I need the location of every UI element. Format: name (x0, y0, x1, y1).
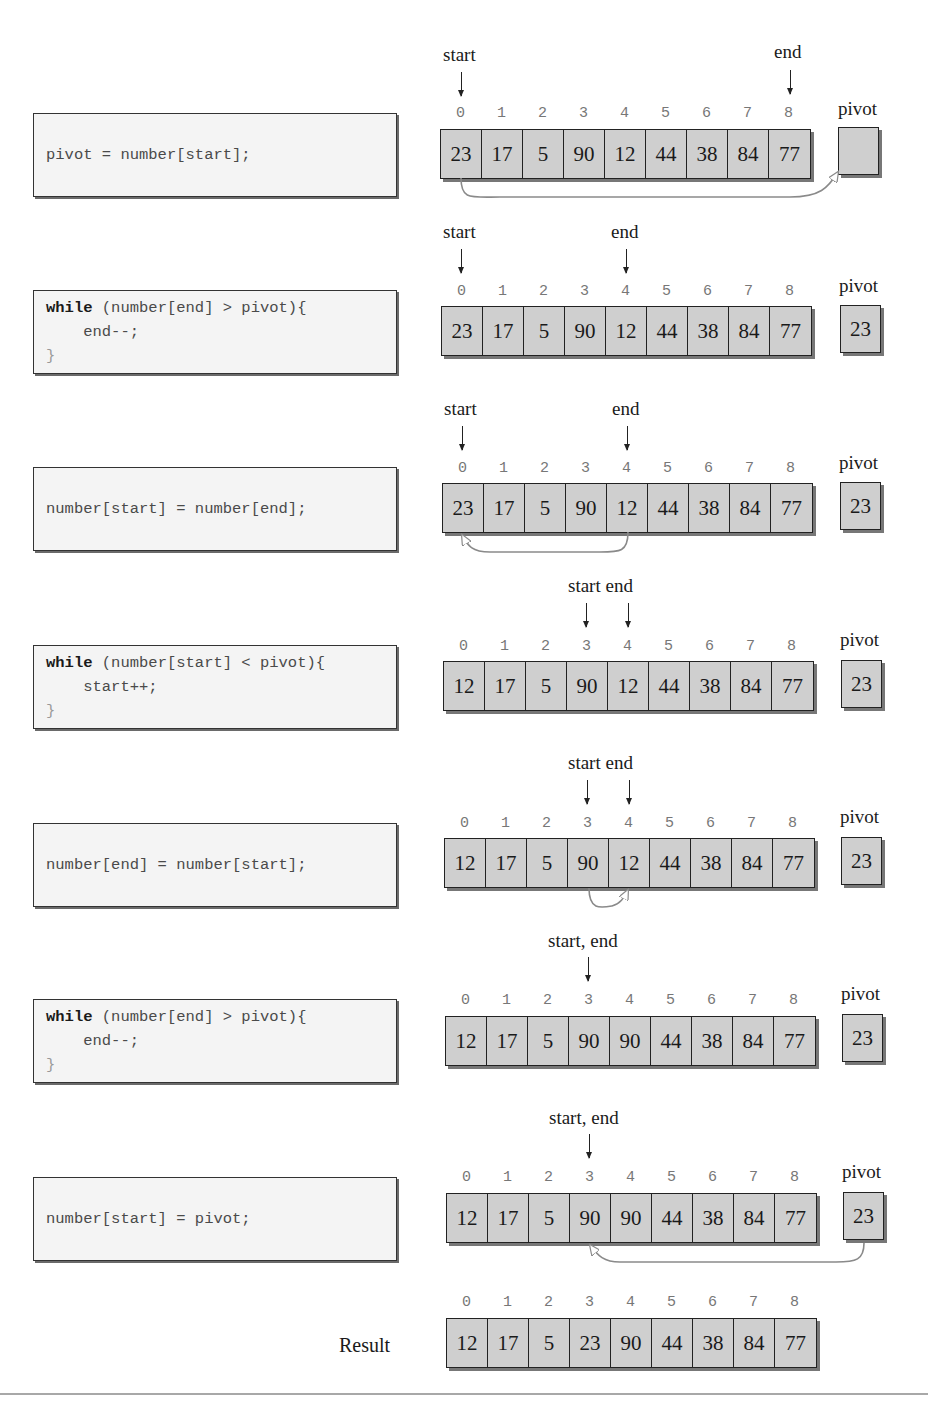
array: 23175901244388477 (442, 483, 813, 533)
array-cell: 77 (770, 307, 811, 355)
move-arrow-icon (589, 888, 628, 907)
array-cell: 17 (483, 307, 524, 355)
start-end-pointer-label: start, end (549, 1107, 619, 1129)
down-arrow-icon (461, 249, 462, 273)
down-arrow-icon (461, 72, 462, 96)
array-cell: 44 (646, 130, 687, 178)
array-cell: 44 (647, 307, 688, 355)
pivot-label: pivot (840, 806, 879, 828)
array: 12175901244388477 (444, 838, 815, 888)
down-arrow-icon (628, 603, 629, 627)
array-cell: 77 (775, 1194, 816, 1242)
pivot-box: 23 (840, 305, 881, 353)
array-cell: 5 (524, 307, 565, 355)
start-pointer-label: start (444, 398, 477, 420)
array-cell: 90 (569, 1017, 610, 1065)
result-array: 12175239044388477 (446, 1318, 817, 1368)
pivot-label: pivot (839, 452, 878, 474)
pivot-label: pivot (842, 1161, 881, 1183)
array-cell: 12 (605, 130, 646, 178)
down-arrow-icon (626, 249, 627, 273)
array-cell: 90 (565, 307, 606, 355)
array-cell: 12 (607, 484, 648, 532)
array: 23175901244388477 (441, 306, 812, 356)
end-pointer-label: end (774, 41, 801, 63)
end-pointer-label: end (611, 221, 638, 243)
code-box: number[start] = number[end]; (33, 467, 397, 551)
array-cell: 90 (611, 1194, 652, 1242)
down-arrow-icon (589, 1134, 590, 1158)
array-cell: 12 (606, 307, 647, 355)
pivot-box: 23 (842, 1014, 883, 1062)
array-cell: 44 (651, 1017, 692, 1065)
array-cell: 38 (687, 130, 728, 178)
array-cell: 84 (729, 307, 770, 355)
index-row: 012345678 (446, 1294, 815, 1311)
down-arrow-icon (629, 780, 630, 804)
result-label: Result (339, 1334, 390, 1357)
array-cell: 38 (693, 1319, 734, 1367)
index-row: 012345678 (442, 460, 811, 477)
code-box: number[end] = number[start]; (33, 823, 397, 907)
array-cell: 5 (529, 1319, 570, 1367)
array-cell: 5 (529, 1194, 570, 1242)
array-cell: 17 (482, 130, 523, 178)
array-cell: 23 (570, 1319, 611, 1367)
pivot-label: pivot (838, 98, 877, 120)
array-cell: 38 (692, 1017, 733, 1065)
array-cell: 12 (446, 1017, 487, 1065)
pivot-box: 23 (840, 482, 881, 530)
array-cell: 44 (652, 1194, 693, 1242)
down-arrow-icon (462, 426, 463, 450)
array-cell: 12 (608, 662, 649, 710)
array-cell: 90 (570, 1194, 611, 1242)
array-cell: 84 (728, 130, 769, 178)
start-end-pointer-label: start end (568, 752, 633, 774)
move-arrow-icon (590, 1243, 864, 1262)
code-box: while (number[end] > pivot){ end--; } (33, 999, 397, 1083)
array-cell: 5 (525, 484, 566, 532)
array-cell: 44 (648, 484, 689, 532)
array: 12175909044388477 (446, 1193, 817, 1243)
array-cell: 5 (528, 1017, 569, 1065)
array-cell: 84 (730, 484, 771, 532)
pivot-label: pivot (841, 983, 880, 1005)
down-arrow-icon (588, 957, 589, 981)
start-end-pointer-label: start, end (548, 930, 618, 952)
array-cell: 84 (731, 662, 772, 710)
array-cell: 5 (523, 130, 564, 178)
code-box: while (number[start] < pivot){ start++; … (33, 645, 397, 729)
index-row: 012345678 (440, 105, 809, 122)
array-cell: 17 (484, 484, 525, 532)
array-cell: 38 (689, 484, 730, 532)
array-cell: 84 (733, 1017, 774, 1065)
array-cell: 84 (732, 839, 773, 887)
down-arrow-icon (587, 780, 588, 804)
array-cell: 84 (734, 1194, 775, 1242)
array-cell: 17 (487, 1017, 528, 1065)
array-cell: 77 (769, 130, 810, 178)
array-cell: 84 (734, 1319, 775, 1367)
array-cell: 17 (486, 839, 527, 887)
array-cell: 77 (772, 662, 813, 710)
down-arrow-icon (586, 603, 587, 627)
pivot-box: 23 (841, 660, 882, 708)
array-cell: 44 (652, 1319, 693, 1367)
array-cell: 90 (567, 662, 608, 710)
array-cell: 77 (773, 839, 814, 887)
array-cell: 17 (488, 1319, 529, 1367)
pivot-box: 23 (841, 837, 882, 885)
index-row: 012345678 (444, 815, 813, 832)
array-cell: 12 (444, 662, 485, 710)
code-box: while (number[end] > pivot){ end--; } (33, 290, 397, 374)
down-arrow-icon (627, 426, 628, 450)
code-text: pivot = number[start]; (46, 146, 251, 164)
array-cell: 38 (691, 839, 732, 887)
down-arrow-icon (790, 70, 791, 94)
code-box: number[start] = pivot; (33, 1177, 397, 1261)
array-cell: 90 (568, 839, 609, 887)
pivot-label: pivot (840, 629, 879, 651)
pivot-label: pivot (839, 275, 878, 297)
code-box: pivot = number[start]; (33, 113, 397, 197)
array-cell: 90 (610, 1017, 651, 1065)
